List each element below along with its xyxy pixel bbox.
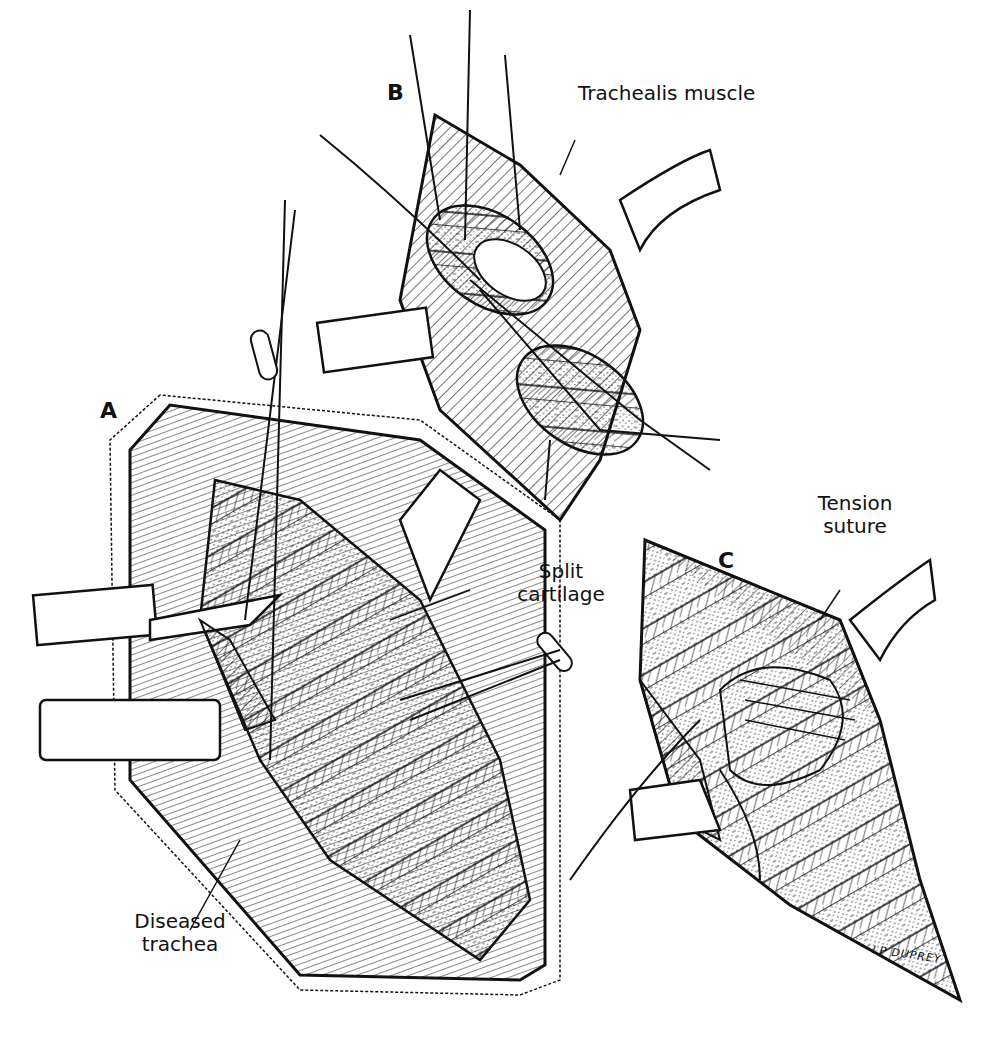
- retractor-c-right-icon: [850, 560, 935, 660]
- panel-label-a: A: [100, 398, 117, 423]
- label-tension-suture: Tension suture: [810, 492, 900, 538]
- label-split-line2: cartilage: [516, 583, 606, 606]
- retractor-b-left-icon: [317, 308, 433, 373]
- retractor-left-icon: [33, 585, 157, 645]
- panel-label-b: B: [387, 80, 404, 105]
- label-diseased-line2: trachea: [130, 933, 230, 956]
- label-tension-line1: Tension: [810, 492, 900, 515]
- label-diseased-line1: Diseased: [130, 910, 230, 933]
- label-tension-line2: suture: [810, 515, 900, 538]
- retractor-b-right-icon: [620, 150, 720, 250]
- label-trachealis-muscle: Trachealis muscle: [578, 82, 755, 105]
- label-diseased-trachea: Diseased trachea: [130, 910, 230, 956]
- label-split-cartilage: Split cartilage: [516, 560, 606, 606]
- retractor-bottom-icon: [40, 700, 220, 760]
- panel-label-c: C: [718, 548, 734, 573]
- panel-c-drawing: [570, 540, 960, 1000]
- label-split-line1: Split: [516, 560, 606, 583]
